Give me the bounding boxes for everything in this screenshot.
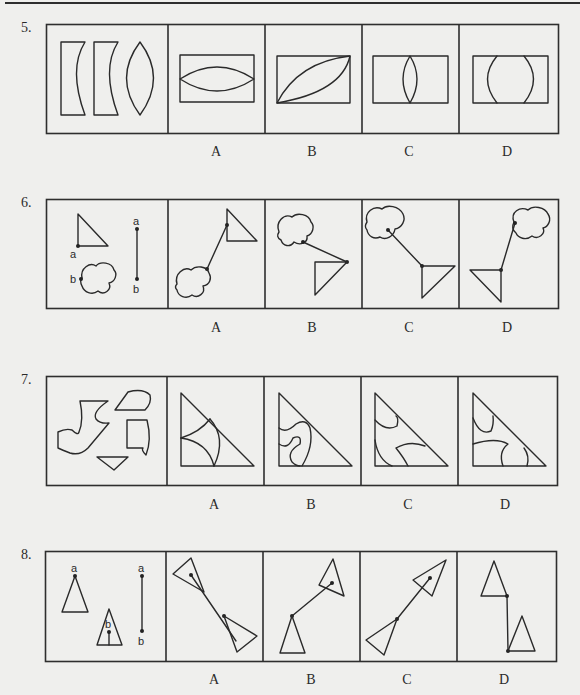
q5-option-a-panel[interactable]: [168, 25, 265, 133]
header-rule: [5, 2, 580, 4]
q6-option-c-label[interactable]: C: [399, 320, 419, 336]
q5-option-a-label[interactable]: A: [206, 144, 226, 160]
svg-text:b: b: [70, 273, 76, 285]
q5-option-c-panel[interactable]: [362, 25, 459, 133]
question-number-6: 6.: [21, 195, 32, 211]
svg-text:a: a: [70, 248, 77, 260]
q7-option-c-label[interactable]: C: [398, 497, 418, 513]
q5-option-d-label[interactable]: D: [497, 144, 517, 160]
q7-option-b-panel[interactable]: [264, 377, 361, 485]
q5-option-b-panel[interactable]: [265, 25, 362, 133]
q8-option-c-label[interactable]: C: [397, 672, 417, 688]
q7-option-d-label[interactable]: D: [495, 497, 515, 513]
q6-option-b-panel[interactable]: [265, 200, 362, 308]
q8-option-c-panel[interactable]: [360, 552, 457, 661]
q8-option-d-panel[interactable]: [457, 552, 556, 661]
question-number-5: 5.: [21, 20, 32, 36]
q6-option-a-label[interactable]: A: [206, 320, 226, 336]
svg-text:a: a: [71, 562, 78, 574]
q7-option-b-label[interactable]: B: [301, 497, 321, 513]
q6-prompt-pieces: a b a b: [70, 214, 140, 295]
q5-option-b-label[interactable]: B: [302, 144, 322, 160]
q6-option-c-panel[interactable]: [362, 200, 459, 308]
q8-option-b-panel[interactable]: [263, 552, 360, 661]
svg-text:a: a: [138, 562, 145, 574]
q7-option-a-panel[interactable]: [167, 377, 264, 485]
q7-prompt-pieces: [58, 391, 150, 470]
q8-option-a-label[interactable]: A: [204, 672, 224, 688]
q8-prompt-pieces: a b a b: [62, 562, 145, 647]
q5-option-c-label[interactable]: C: [399, 144, 419, 160]
q8-option-a-panel[interactable]: [166, 552, 263, 661]
question-number-8: 8.: [21, 547, 32, 563]
q6-option-d-label[interactable]: D: [497, 320, 517, 336]
q5-option-d-panel[interactable]: [459, 25, 558, 133]
q6-option-a-panel[interactable]: [168, 200, 265, 308]
q6-option-d-panel[interactable]: [459, 200, 558, 308]
question-number-7: 7.: [21, 372, 32, 388]
q7-option-a-label[interactable]: A: [204, 497, 224, 513]
svg-text:b: b: [138, 635, 144, 647]
q7-option-d-panel[interactable]: [458, 377, 557, 485]
q5-prompt-pieces: [61, 42, 154, 115]
q8-option-d-label[interactable]: D: [494, 672, 514, 688]
svg-text:b: b: [105, 618, 111, 630]
svg-text:b: b: [133, 283, 139, 295]
svg-text:a: a: [133, 215, 140, 227]
q8-option-b-label[interactable]: B: [301, 672, 321, 688]
q7-option-c-panel[interactable]: [361, 377, 458, 485]
q6-option-b-label[interactable]: B: [302, 320, 322, 336]
